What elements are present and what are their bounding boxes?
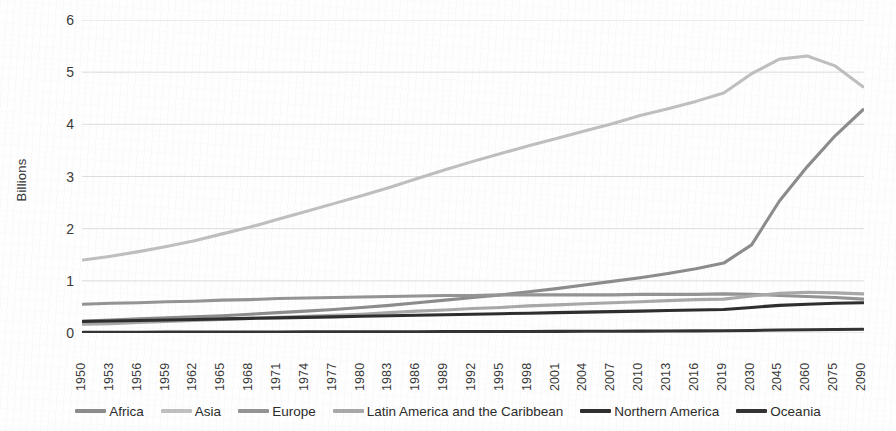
- legend-item-label: Northern America: [614, 404, 719, 419]
- plot-area: [82, 20, 864, 333]
- y-axis-tick-label: 5: [48, 64, 74, 80]
- legend-swatch-icon: [333, 409, 364, 413]
- x-axis-tick-label: 2090: [854, 363, 868, 391]
- y-axis-tick-label: 0: [48, 325, 74, 341]
- legend-item[interactable]: Oceania: [736, 404, 820, 419]
- legend-item[interactable]: Northern America: [580, 404, 719, 419]
- x-axis-tick-label: 2045: [770, 363, 784, 391]
- x-axis-tick-label: 1965: [213, 363, 227, 391]
- y-axis-tick-label: 1: [48, 273, 74, 289]
- x-axis-tick-label: 1986: [408, 363, 422, 391]
- y-axis-tick-labels: 0123456: [38, 0, 74, 431]
- legend-swatch-icon: [580, 409, 611, 413]
- x-axis-tick-label: 2010: [631, 363, 645, 391]
- x-axis-tick-label: 1983: [380, 363, 394, 391]
- x-axis-tick-label: 1950: [74, 363, 88, 391]
- legend-item[interactable]: Latin America and the Caribbean: [333, 404, 564, 419]
- population-line-chart: Billions 0123456 19501953195619591962196…: [0, 0, 896, 431]
- legend-item[interactable]: Africa: [75, 404, 144, 419]
- legend-swatch-icon: [161, 409, 192, 413]
- x-axis-tick-label: 1962: [185, 363, 199, 391]
- x-axis-tick-label: 2060: [798, 363, 812, 391]
- plot-svg: [82, 20, 864, 333]
- x-axis-tick-labels: 1950195319561959196219651968197119741977…: [82, 333, 864, 391]
- y-axis-title: Billions: [14, 120, 29, 240]
- series-lines: [83, 56, 863, 332]
- x-axis-tick-label: 2007: [603, 363, 617, 391]
- legend-item-label: Oceania: [770, 404, 820, 419]
- x-axis-tick-label: 1980: [353, 363, 367, 391]
- legend-swatch-icon: [75, 409, 106, 413]
- x-axis-tick-label: 1971: [269, 363, 283, 391]
- y-axis-tick-label: 2: [48, 221, 74, 237]
- legend-item[interactable]: Asia: [161, 404, 221, 419]
- legend-item-label: Europe: [272, 404, 316, 419]
- x-axis-tick-label: 1953: [102, 363, 116, 391]
- x-axis-tick-label: 1974: [297, 363, 311, 391]
- legend-swatch-icon: [736, 409, 767, 413]
- x-axis-tick-label: 1995: [492, 363, 506, 391]
- x-axis-tick-label: 1998: [520, 363, 534, 391]
- legend-swatch-icon: [238, 409, 269, 413]
- chart-legend: AfricaAsiaEuropeLatin America and the Ca…: [0, 396, 896, 426]
- x-axis-tick-label: 2004: [575, 363, 589, 391]
- legend-item-label: Latin America and the Caribbean: [367, 404, 564, 419]
- y-axis-tick-label: 6: [48, 12, 74, 28]
- x-axis-tick-label: 1956: [130, 363, 144, 391]
- series-line: [83, 329, 863, 332]
- x-axis-tick-label: 2013: [659, 363, 673, 391]
- x-axis-tick-label: 2001: [548, 363, 562, 391]
- series-line: [83, 56, 863, 260]
- x-axis-tick-label: 1968: [241, 363, 255, 391]
- x-axis-tick-label: 2075: [826, 363, 840, 391]
- gridlines: [82, 20, 864, 333]
- x-axis-tick-label: 1977: [325, 363, 339, 391]
- legend-item-label: Africa: [109, 404, 144, 419]
- x-axis-tick-label: 2019: [715, 363, 729, 391]
- y-axis-tick-label: 3: [48, 169, 74, 185]
- legend-item[interactable]: Europe: [238, 404, 316, 419]
- series-line: [83, 110, 863, 321]
- x-axis-tick-label: 1989: [436, 363, 450, 391]
- legend-item-label: Asia: [195, 404, 221, 419]
- x-axis-tick-label: 2016: [687, 363, 701, 391]
- y-axis-tick-label: 4: [48, 116, 74, 132]
- x-axis-tick-label: 1959: [158, 363, 172, 391]
- x-axis-tick-label: 1992: [464, 363, 478, 391]
- series-line: [83, 303, 863, 322]
- x-axis-tick-label: 2030: [743, 363, 757, 391]
